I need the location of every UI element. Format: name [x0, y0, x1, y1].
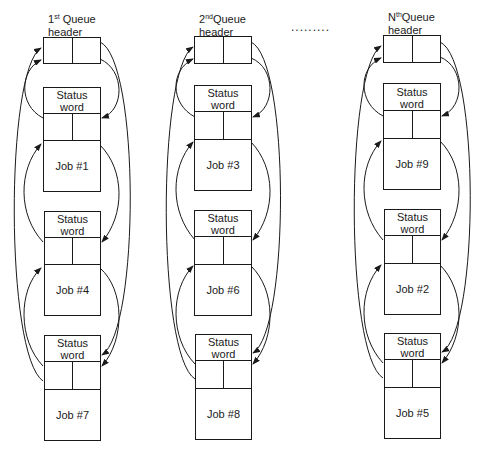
- status-label: Status: [57, 213, 88, 225]
- back-link-2-1: [176, 142, 195, 240]
- queue-1-label-text: Queue: [60, 13, 96, 25]
- backward-pointer-cell: [223, 361, 251, 389]
- queue-n-label-ordinal: N: [388, 11, 396, 23]
- job-4-pointer-cells: [44, 237, 101, 266]
- job-6-body: Job #6: [194, 264, 252, 316]
- job-1-body: Job #1: [43, 140, 101, 192]
- job-label: Job #8: [207, 408, 240, 420]
- job-label: Job #9: [395, 158, 428, 170]
- job-2-body: Job #2: [384, 263, 441, 315]
- fwd-link-h-1: [251, 58, 270, 117]
- job-6-status-word: Status word: [194, 210, 252, 238]
- back-link-3-2: [24, 268, 43, 366]
- status-label: Status: [56, 89, 87, 101]
- forward-pointer-cell: [45, 238, 72, 265]
- job-3-pointer-cells: [194, 111, 252, 141]
- status-label: word: [61, 225, 85, 237]
- header-forward-pointer: [44, 38, 72, 63]
- status-label: word: [400, 98, 424, 110]
- job-8-status-word: Status word: [195, 334, 252, 362]
- job-4-body: Job #4: [44, 264, 101, 316]
- job-label: Job #1: [55, 160, 88, 172]
- job-2-status-word: Status word: [384, 209, 441, 237]
- job-4-status-word: Status word: [44, 211, 101, 239]
- queue-2-label-sup: nd: [205, 13, 213, 20]
- status-label: word: [211, 99, 235, 111]
- job-5-status-word: Status word: [384, 333, 441, 361]
- backward-pointer-cell: [223, 237, 252, 265]
- forward-pointer-cell: [195, 112, 223, 140]
- wrap-link-tail-h: [166, 47, 195, 379]
- job-7-status-word: Status word: [44, 335, 101, 363]
- status-label: word: [401, 223, 425, 235]
- wrap-link-h-tail: [251, 42, 281, 353]
- status-label: Status: [396, 86, 427, 98]
- fwd-link-2-3: [251, 266, 270, 364]
- backward-pointer-cell: [412, 111, 441, 139]
- job-3-body: Job #3: [194, 139, 252, 191]
- job-label: Job #3: [206, 159, 239, 171]
- job-1-pointer-cells: [43, 113, 101, 142]
- job-8-pointer-cells: [195, 360, 252, 390]
- status-label: Status: [207, 87, 238, 99]
- back-link-2-1: [364, 141, 383, 240]
- job-9-body: Job #9: [383, 138, 441, 190]
- queue-2-label: 2ndQueue header: [199, 10, 246, 39]
- job-7-pointer-cells: [44, 361, 101, 391]
- wrap-link-tail-h: [14, 48, 43, 381]
- status-label: word: [212, 348, 236, 360]
- job-5-pointer-cells: [384, 359, 441, 389]
- wrap-link-tail-h: [354, 46, 383, 378]
- forward-pointer-cell: [44, 114, 72, 141]
- job-label: Job #2: [396, 283, 429, 295]
- queue-2-header-box: [194, 36, 252, 64]
- status-label: word: [401, 347, 425, 359]
- job-3-status-word: Status word: [194, 85, 252, 113]
- fwd-link-1-2: [251, 142, 270, 240]
- status-label: Status: [208, 336, 239, 348]
- wrap-link-h-tail: [100, 42, 130, 355]
- backward-pointer-cell: [412, 360, 440, 388]
- queue-2-label-text: Queue: [213, 13, 246, 25]
- backward-pointer-cell: [72, 114, 101, 141]
- job-2-pointer-cells: [384, 235, 441, 265]
- job-9-status-word: Status word: [383, 83, 441, 112]
- header-forward-pointer: [384, 36, 412, 62]
- forward-pointer-cell: [385, 236, 412, 264]
- job-9-pointer-cells: [383, 110, 441, 140]
- fwd-link-2-3: [440, 265, 459, 363]
- job-7-body: Job #7: [44, 389, 101, 441]
- more-queues-ellipsis: .........: [291, 20, 330, 34]
- forward-pointer-cell: [45, 362, 72, 390]
- queue-1-header-box: [43, 37, 101, 64]
- back-link-3-2: [364, 265, 383, 363]
- status-label: word: [61, 349, 85, 361]
- wrap-link-h-tail: [440, 42, 470, 352]
- job-8-body: Job #8: [195, 388, 252, 440]
- backward-pointer-cell: [223, 112, 252, 140]
- back-link-2-1: [24, 144, 43, 242]
- fwd-link-h-1: [440, 57, 459, 116]
- job-label: Job #6: [206, 284, 239, 296]
- header-backward-pointer: [223, 37, 252, 63]
- back-link-1-h: [25, 60, 43, 118]
- fwd-link-2-3: [100, 268, 119, 366]
- status-label: Status: [207, 212, 238, 224]
- job-label: Job #7: [56, 409, 89, 421]
- backward-pointer-cell: [72, 362, 100, 390]
- status-label: Status: [397, 211, 428, 223]
- job-6-pointer-cells: [194, 236, 252, 266]
- status-label: word: [60, 101, 84, 113]
- status-label: word: [211, 224, 235, 236]
- backward-pointer-cell: [412, 236, 440, 264]
- job-label: Job #5: [396, 407, 429, 419]
- header-backward-pointer: [412, 36, 441, 62]
- queue-1-label: 1st Queue header: [48, 10, 96, 39]
- back-link-1-h: [176, 59, 195, 117]
- forward-pointer-cell: [196, 361, 223, 389]
- queue-n-header-box: [383, 35, 441, 63]
- header-forward-pointer: [195, 37, 223, 63]
- header-backward-pointer: [72, 38, 101, 63]
- back-link-1-h: [364, 58, 383, 116]
- forward-pointer-cell: [385, 360, 412, 388]
